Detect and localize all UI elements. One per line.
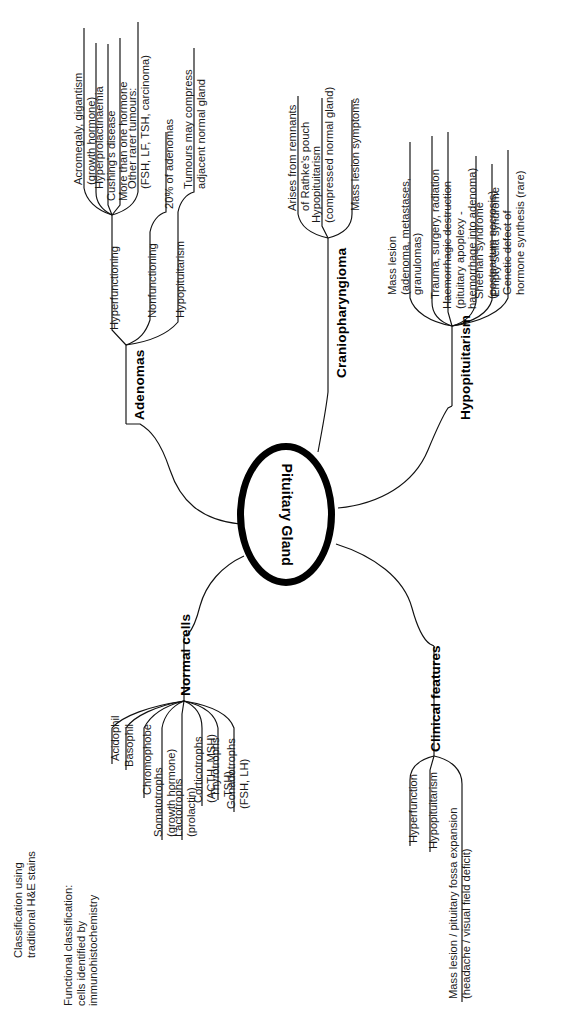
leaf-label-cranio-mass-lesion-symptoms[interactable]: Mass lesion symptoms: [349, 98, 362, 211]
leaf-label-trauma-surgery-radiation[interactable]: Trauma, surgery, radiation: [429, 169, 442, 299]
node-label-adenoma-hypopituitarism[interactable]: Hypopituitarism: [174, 241, 187, 318]
branch-label-normal-cells[interactable]: Normal cells: [178, 614, 193, 696]
leaf-label-mass-lesion[interactable]: Mass lesion (adenoma, metastases, granul…: [386, 178, 424, 295]
leaf-label-other-rarer-tumours[interactable]: Other rarer tumours: (FSH, LF, TSH, carc…: [126, 55, 151, 189]
leaf-label-basophil[interactable]: Basophil: [123, 724, 136, 767]
node-label-nonfunctioning[interactable]: Nonfunctioning: [146, 243, 159, 318]
branch-label-clinical-features[interactable]: Clinical features: [428, 645, 443, 752]
wire-center-to-hypopituitarism: [338, 406, 452, 508]
center-node-label: Pituitary Gland: [237, 443, 335, 586]
wire-center-to-craniopharyngioma: [318, 382, 328, 452]
leaf-label-rathkes-pouch[interactable]: Arises from remnants of Rathke's pouch: [286, 105, 311, 211]
leaf-label-tumours-may-compress[interactable]: Tumours may compress adjacent normal gla…: [182, 69, 207, 189]
center-node-text: Pituitary Gland: [278, 463, 294, 566]
leaf-label-empty-sella-syndrome[interactable]: Empty sella syndrome: [489, 187, 502, 297]
mindmap-canvas: Pituitary Gland Adenomas Craniopharyngio…: [0, 0, 573, 1018]
branch-label-adenomas[interactable]: Adenomas: [132, 350, 147, 420]
annotation-he-stains: Classification using traditional H&E sta…: [12, 851, 37, 958]
leaf-label-gonadotrophs[interactable]: Gonadotrophs (FSH, LH): [225, 738, 250, 809]
branch-label-hypopituitarism[interactable]: Hypopituitarism: [458, 315, 473, 420]
leaf-label-clinical-hypopituitarism[interactable]: Hypopituitarism: [427, 772, 440, 849]
leaf-label-cushings-disease[interactable]: Cushing's disease: [105, 111, 118, 201]
node-label-hyperfunctioning[interactable]: Hyperfunctioning: [108, 246, 121, 330]
leaf-label-hyperprolactinaemia[interactable]: Hyperprolactinaemia: [93, 86, 106, 189]
leaf-label-cranio-hypopituitarism[interactable]: Hypopituitarism (compressed normal gland…: [310, 87, 335, 223]
branch-label-craniopharyngioma[interactable]: Craniopharyngioma: [334, 248, 349, 378]
leaf-label-genetic-defect[interactable]: Genetic defect of hormone synthesis (rar…: [501, 171, 526, 295]
leaf-label-20-percent-adenomas[interactable]: 20% of adenomas: [163, 119, 176, 209]
leaf-label-mass-lesion-fossa-expansion[interactable]: Mass lesion / pituitary fossa expansion …: [447, 807, 472, 999]
wire-center-to-clinical-features: [336, 544, 434, 646]
wire-center-to-adenomas: [126, 424, 240, 524]
leaf-label-hyperfunction[interactable]: Hyperfunction: [407, 774, 420, 843]
annotation-immunohistochemistry: Functional classification: cells identif…: [62, 885, 100, 1006]
leaf-label-acidophil[interactable]: Acidophil: [109, 716, 122, 761]
